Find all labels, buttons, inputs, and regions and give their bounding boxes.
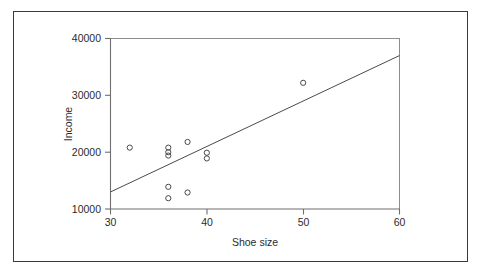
data-point <box>166 184 171 189</box>
plot-canvas: 40000 30000 20000 10000 30 40 50 60 Shoe… <box>0 0 480 277</box>
x-axis <box>110 209 400 215</box>
data-point <box>185 139 190 144</box>
data-point <box>204 156 209 161</box>
data-point <box>204 150 209 155</box>
regression-line <box>111 56 400 192</box>
y-axis-title: Income <box>62 107 74 142</box>
data-points-group <box>127 80 306 201</box>
x-tick-label-30: 30 <box>105 216 117 228</box>
scatter-plot-figure: 40000 30000 20000 10000 30 40 50 60 Shoe… <box>0 0 480 277</box>
data-point <box>127 145 132 150</box>
data-point <box>301 80 306 85</box>
x-tick-label-40: 40 <box>201 216 213 228</box>
y-tick-label-30000: 30000 <box>72 89 101 101</box>
figure-page: 40000 30000 20000 10000 30 40 50 60 Shoe… <box>0 0 480 277</box>
y-tick-label-40000: 40000 <box>72 32 101 44</box>
y-axis <box>105 38 111 209</box>
data-point <box>185 190 190 195</box>
x-axis-title: Shoe size <box>232 236 278 248</box>
y-tick-label-20000: 20000 <box>72 146 101 158</box>
y-tick-label-10000: 10000 <box>72 203 101 215</box>
x-tick-label-50: 50 <box>298 216 310 228</box>
data-point <box>166 196 171 201</box>
x-tick-label-60: 60 <box>394 216 406 228</box>
data-point <box>166 153 171 158</box>
